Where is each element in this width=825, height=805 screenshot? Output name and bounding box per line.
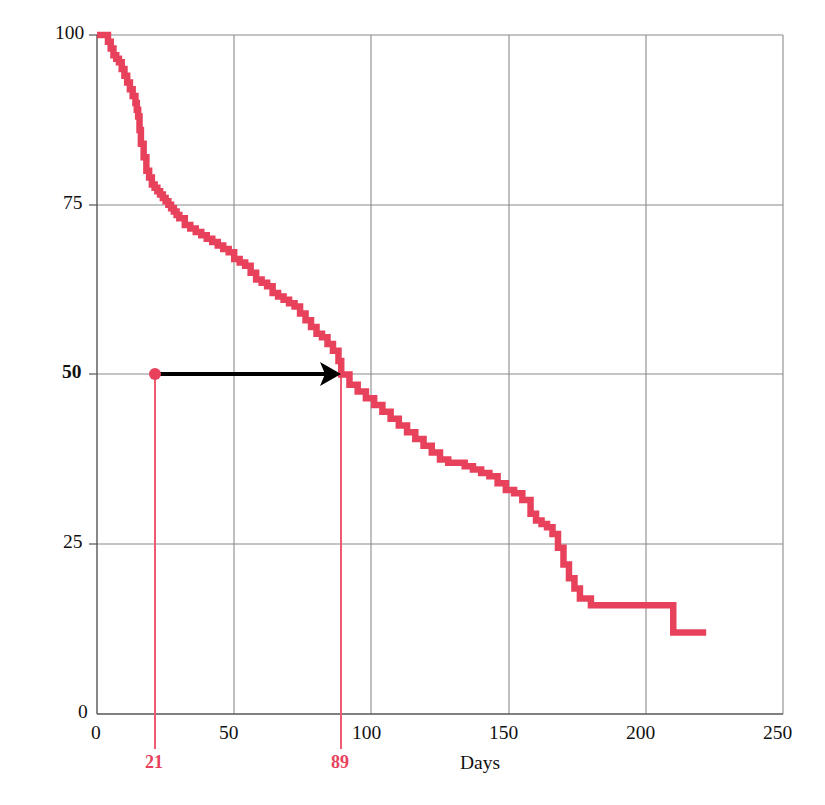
median-start-dot <box>149 368 161 380</box>
survival-chart-figure: Patients Without CMV Progression (%) 100… <box>0 0 825 805</box>
plot-canvas <box>0 0 825 805</box>
median-arrow-annotation <box>157 362 341 386</box>
survival-curve <box>97 35 706 633</box>
median-markers <box>155 374 341 749</box>
